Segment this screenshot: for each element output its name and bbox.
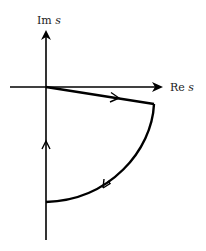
contour-ray-segment (46, 87, 154, 104)
imag-axis (41, 30, 51, 240)
imag-axis-label: Im s (37, 14, 61, 27)
real-axis-label: Re s (170, 81, 194, 94)
nyquist-contour-diagram: Im s Re s (0, 0, 206, 251)
real-axis (10, 82, 163, 92)
contour-arc-segment (46, 104, 154, 202)
